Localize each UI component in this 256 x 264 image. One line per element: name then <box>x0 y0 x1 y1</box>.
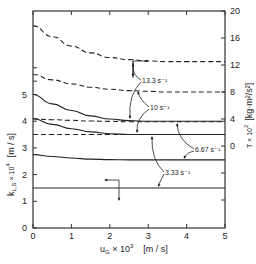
y-left-tick-label: 1 <box>22 196 27 206</box>
x-tick-label: 4 <box>184 231 189 241</box>
leader-3-33-dashed <box>152 137 164 172</box>
series-line-5 <box>33 74 225 92</box>
annotation-3-33: 3.33 s⁻¹ <box>165 169 191 176</box>
y-left-tick-label: 0 <box>22 223 27 233</box>
leader-13-3-dashed <box>133 64 141 80</box>
y-left-tick-label: 3 <box>22 143 27 153</box>
x-tick-label: 3 <box>146 231 151 241</box>
y-left-axis-label: kL,S × 104[m / s] <box>5 133 17 196</box>
leader-10-solid <box>137 109 149 132</box>
arrowhead-13-3-solid <box>129 116 132 119</box>
arrowhead-10-solid <box>136 130 139 133</box>
y-right-tick-label: 0 <box>230 141 235 151</box>
series-line-0 <box>33 95 225 122</box>
leader-13-3-solid <box>130 82 141 118</box>
y-right-tick-label: 16 <box>230 33 240 43</box>
annotations: 13.3 s⁻¹ 10 s⁻¹ 6.67 s⁻¹ 3.33 s⁻¹ <box>104 60 221 201</box>
y-left-tick-label: 5 <box>22 90 27 100</box>
x-tick-label: 0 <box>30 231 35 241</box>
arrow-left-icon <box>104 179 107 182</box>
arrow-down-icon <box>132 74 135 77</box>
svg-text:T × 102[kg·m²/s²]: T × 102[kg·m²/s²] <box>243 83 254 148</box>
arrowhead-3-33-dashed <box>151 136 154 139</box>
y-right-axis-label: T × 102[kg·m²/s²] <box>243 83 254 148</box>
x-axis-label: uG × 103[m / s] <box>100 243 168 255</box>
chart-container: 012345012345048121620 13.3 s⁻¹ 10 s⁻¹ 6.… <box>0 0 256 264</box>
y-right-tick-label: 8 <box>230 87 235 97</box>
annotation-13-3: 13.3 s⁻¹ <box>142 77 168 84</box>
leader-10-dashed <box>138 92 149 107</box>
x-tick-label: 2 <box>107 231 112 241</box>
series-line-2 <box>33 155 225 160</box>
y-right-tick-label: 4 <box>230 114 235 124</box>
arrowhead-6-67-solid <box>184 156 187 159</box>
svg-text:kL,S × 104[m / s]: kL,S × 104[m / s] <box>5 133 17 196</box>
chart-svg: 012345012345048121620 13.3 s⁻¹ 10 s⁻¹ 6.… <box>0 0 256 264</box>
y-left-tick-label: 2 <box>22 170 27 180</box>
annotation-6-67: 6.67 s⁻¹ <box>195 146 221 153</box>
y-left-tick-label: 4 <box>22 116 27 126</box>
x-tick-label: 5 <box>222 231 227 241</box>
arrowhead-6-67-dashed <box>176 123 179 126</box>
svg-text:uG × 103[m / s]: uG × 103[m / s] <box>100 243 168 255</box>
series-lines <box>33 26 225 188</box>
axis-ticks: 012345012345048121620 <box>22 6 240 241</box>
arrow-right-icon <box>146 60 149 63</box>
annotation-10: 10 s⁻¹ <box>150 104 170 111</box>
arrow-down-icon-2 <box>118 198 121 201</box>
series-line-4 <box>33 26 225 62</box>
y-right-tick-label: 20 <box>230 6 240 16</box>
y-right-tick-label: 12 <box>230 60 240 70</box>
leader-6-67-dashed <box>177 124 194 149</box>
x-tick-label: 1 <box>69 231 74 241</box>
